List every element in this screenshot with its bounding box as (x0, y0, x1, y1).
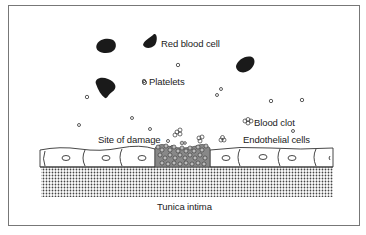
label-site-of-damage: Site of damage (98, 134, 161, 145)
clot-mass (155, 141, 210, 167)
label-platelets: Platelets (142, 76, 185, 87)
label-tunica-intima: Tunica intima (157, 201, 212, 212)
clot-clusters (173, 118, 253, 144)
platelet-icon (142, 80, 147, 85)
label-platelets-text: Platelets (149, 76, 185, 87)
label-red-blood-cell: Red blood cell (161, 38, 220, 49)
label-endothelial-cells: Endothelial cells (243, 134, 310, 145)
blood-clot-diagram (0, 0, 366, 235)
label-blood-clot: Blood clot (254, 117, 295, 128)
tunica-intima-layer (41, 167, 333, 197)
